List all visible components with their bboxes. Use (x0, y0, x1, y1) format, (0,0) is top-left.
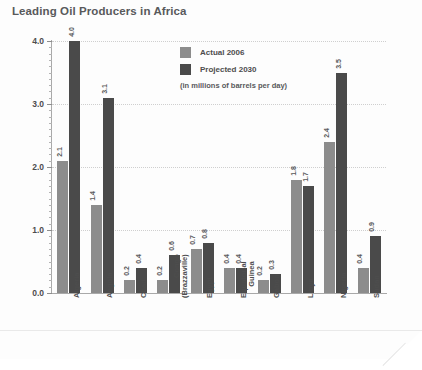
bar-actual-2006: 0.2 (157, 280, 168, 293)
legend-units-note: (in millions of barrels per day) (180, 81, 340, 90)
y-tick-minor (49, 255, 52, 256)
y-tick-minor (49, 249, 52, 250)
y-tick-minor (49, 211, 52, 212)
bar-projected-2030: 3.1 (103, 98, 114, 293)
x-axis-tick-label: Egypt (206, 277, 214, 298)
x-axis-tick-label: Angola (106, 273, 114, 298)
bar-value-label: 3.1 (101, 84, 108, 94)
y-axis-tick-label: 2.0 (18, 162, 44, 172)
bar-group: 0.40.9 (357, 41, 382, 293)
y-tick-major (47, 41, 52, 42)
y-tick-minor (49, 91, 52, 92)
bar-group: 0.20.4 (123, 41, 148, 293)
bar-value-label: 0.4 (135, 254, 142, 264)
bar-value-label: 0.9 (368, 222, 375, 232)
bar-actual-2006: 2.4 (324, 142, 335, 293)
x-axis-tick-label-line: Chad (140, 279, 148, 298)
x-axis-tick-label-line: Guinea (248, 261, 256, 298)
x-axis-tick-label-line: Egypt (206, 277, 214, 298)
x-axis-tick-label: EquatorialGuinea (240, 261, 256, 298)
bar-projected-2030: 3.5 (336, 73, 347, 294)
bar-value-label: 1.7 (302, 172, 309, 182)
bar-value-label: 0.8 (201, 229, 208, 239)
y-tick-major (47, 293, 52, 294)
bar-value-label: 0.6 (168, 241, 175, 251)
bar-projected-2030: 1.7 (303, 186, 314, 293)
y-tick-minor (49, 199, 52, 200)
bar-value-label: 2.4 (323, 128, 330, 138)
y-tick-minor (49, 192, 52, 193)
x-axis-tick-label: Libya (307, 278, 315, 298)
y-tick-minor (49, 186, 52, 187)
x-axis-tick-label-line: Libya (307, 278, 315, 298)
x-axis-tick-label-line: Algeria (73, 273, 81, 298)
y-tick-minor (49, 154, 52, 155)
y-axis-tick-label: 0.0 (18, 288, 44, 298)
legend-label-actual: Actual 2006 (200, 48, 244, 57)
x-axis-tick-label-line: Angola (106, 273, 114, 298)
y-tick-minor (49, 217, 52, 218)
bar-value-label: 0.2 (123, 267, 130, 277)
y-axis-tick-label: 3.0 (18, 99, 44, 109)
bar-value-label: 4.0 (68, 27, 75, 37)
y-axis-labels: 0.01.02.03.04.0 (14, 0, 44, 359)
y-tick-minor (49, 236, 52, 237)
y-tick-minor (49, 205, 52, 206)
bar-value-label: 1.4 (89, 191, 96, 201)
bar-actual-2006: 0.7 (191, 249, 202, 293)
y-tick-minor (49, 173, 52, 174)
y-tick-minor (49, 268, 52, 269)
y-tick-major (47, 230, 52, 231)
y-tick-minor (49, 110, 52, 111)
bar-value-label: 0.3 (268, 260, 275, 270)
y-tick-minor (49, 274, 52, 275)
y-tick-minor (49, 148, 52, 149)
y-tick-minor (49, 262, 52, 263)
y-axis-tick-label: 4.0 (18, 36, 44, 46)
y-tick-minor (49, 66, 52, 67)
bar-actual-2006: 0.2 (124, 280, 135, 293)
y-tick-major (47, 167, 52, 168)
bar-value-label: 0.4 (223, 254, 230, 264)
legend-item-actual: Actual 2006 (180, 47, 340, 58)
x-axis-tick-label: Sudan (373, 275, 381, 298)
y-tick-minor (49, 224, 52, 225)
y-tick-minor (49, 161, 52, 162)
y-tick-minor (49, 73, 52, 74)
bar-value-label: 0.2 (256, 267, 263, 277)
bar-actual-2006: 2.1 (57, 161, 68, 293)
y-tick-minor (49, 47, 52, 48)
bar-actual-2006: 0.2 (258, 280, 269, 293)
y-tick-minor (49, 79, 52, 80)
y-tick-minor (49, 85, 52, 86)
x-axis-tick-label-line: (Brazzaville) (181, 254, 189, 298)
y-tick-minor (49, 54, 52, 55)
y-tick-minor (49, 280, 52, 281)
bar-value-label: 0.4 (356, 254, 363, 264)
x-axis-line (52, 293, 387, 294)
x-axis-tick-label: Nigeria (340, 273, 348, 298)
y-tick-minor (49, 243, 52, 244)
x-axis-tick-label-line: Gabon (273, 274, 281, 298)
y-tick-minor (49, 129, 52, 130)
bar-actual-2006: 1.4 (91, 205, 102, 293)
bar-actual-2006: 0.4 (224, 268, 235, 293)
y-tick-minor (49, 142, 52, 143)
legend-swatch-projected-icon (180, 64, 191, 75)
y-tick-minor (49, 117, 52, 118)
bar-group: 2.14.0 (56, 41, 81, 293)
bar-value-label: 2.1 (56, 147, 63, 157)
y-axis-tick-label: 1.0 (18, 225, 44, 235)
y-tick-minor (49, 123, 52, 124)
x-axis-tick-label: Algeria (73, 273, 81, 298)
bar-actual-2006: 0.4 (358, 268, 369, 293)
bar-actual-2006: 1.8 (291, 180, 302, 293)
bar-value-label: 0.7 (189, 235, 196, 245)
x-axis-tick-label: Chad (140, 279, 148, 298)
chart-legend: Actual 2006 Projected 2030 (in millions … (180, 47, 340, 90)
bar-group: 1.43.1 (90, 41, 115, 293)
bar-value-label: 0.2 (156, 267, 163, 277)
y-tick-minor (49, 180, 52, 181)
bar-value-label: 1.8 (290, 166, 297, 176)
